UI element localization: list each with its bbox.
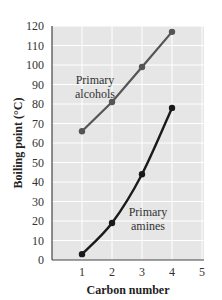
x-tick-labels: 12345	[79, 265, 205, 279]
primary-amines-marker	[79, 251, 85, 257]
primary-alcohols-marker	[169, 29, 175, 35]
y-axis-title: Boiling point (°C)	[11, 98, 25, 189]
primary-amines-marker	[139, 171, 145, 177]
annotation-alcohols-line2: alcohols	[75, 87, 115, 101]
y-tick-label: 30	[32, 195, 44, 209]
x-tick-label: 2	[109, 265, 115, 279]
primary-alcohols-marker	[79, 128, 85, 134]
y-tick-label: 90	[32, 78, 44, 92]
y-tick-label: 60	[32, 136, 44, 150]
x-tick-label: 1	[79, 265, 85, 279]
primary-alcohols-marker	[139, 64, 145, 70]
x-tick-label: 4	[169, 265, 175, 279]
annotation-amines-line1: Primary	[129, 205, 168, 219]
y-tick-label: 50	[32, 156, 44, 170]
y-tick-label: 100	[26, 58, 44, 72]
y-tick-label: 80	[32, 97, 44, 111]
primary-amines-marker	[169, 105, 175, 111]
annotation-amines-line2: amines	[131, 219, 165, 233]
x-axis-title: Carbon number	[86, 283, 170, 297]
y-tick-label: 10	[32, 234, 44, 248]
annotation-alcohols-line1: Primary	[76, 73, 115, 87]
y-tick-label: 0	[38, 253, 44, 267]
y-tick-label: 40	[32, 175, 44, 189]
x-tick-label: 5	[199, 265, 205, 279]
y-tick-label: 110	[26, 39, 44, 53]
y-tick-label: 70	[32, 117, 44, 131]
y-tick-label: 20	[32, 214, 44, 228]
y-tick-labels: 0102030405060708090100110120	[26, 19, 44, 267]
boiling-point-chart: 0102030405060708090100110120 12345 Boili…	[0, 0, 222, 300]
y-tick-label: 120	[26, 19, 44, 33]
x-tick-label: 3	[139, 265, 145, 279]
primary-amines-marker	[109, 220, 115, 226]
